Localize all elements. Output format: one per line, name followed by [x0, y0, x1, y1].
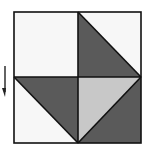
arrow-down-icon [2, 66, 6, 97]
top-left-square [14, 12, 78, 77]
quilt-diagram [0, 0, 148, 154]
